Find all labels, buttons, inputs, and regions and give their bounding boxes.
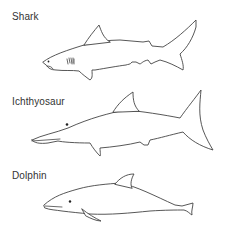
shark-body <box>43 20 196 80</box>
shark-eye <box>48 61 50 63</box>
dolphin-body <box>44 183 193 215</box>
dolphin-eye <box>69 200 71 202</box>
dolphin-drawing <box>44 174 193 221</box>
ichthyosaur-drawing <box>32 90 213 156</box>
ichthyosaur-dorsal-fin <box>113 92 139 112</box>
illustration-canvas <box>0 0 225 231</box>
ichthyosaur-eye <box>66 123 69 126</box>
shark-drawing <box>43 20 196 80</box>
shark-dorsal-fin <box>84 25 110 45</box>
